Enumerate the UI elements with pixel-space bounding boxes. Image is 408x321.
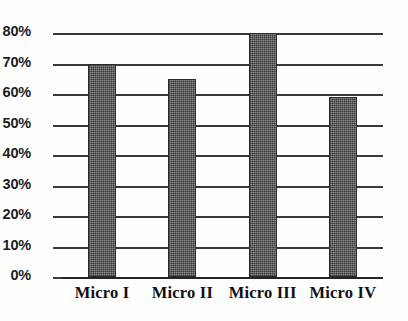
y-axis-tick-mark [53, 64, 62, 66]
y-axis-tick-mark [53, 186, 62, 188]
y-axis-tick-label: 60% [0, 84, 31, 100]
category-axis: Micro IMicro IIMicro IIIMicro IV [62, 283, 383, 313]
y-axis-tick-mark [53, 216, 62, 218]
y-axis-tick-label: 0% [0, 267, 31, 283]
bar [88, 64, 116, 278]
bar [329, 97, 357, 277]
gridline [62, 33, 383, 35]
bar [168, 79, 196, 277]
x-axis-category-label: Micro IV [293, 283, 393, 303]
y-axis-tick-mark [53, 247, 62, 249]
y-axis-tick-label: 50% [0, 115, 31, 131]
y-axis-tick-label: 70% [0, 54, 31, 70]
y-axis-tick-label: 10% [0, 237, 31, 253]
y-axis-tick-mark [53, 277, 62, 279]
y-axis-tick-label: 20% [0, 206, 31, 222]
y-axis-tick-label: 30% [0, 176, 31, 192]
bar [249, 33, 277, 277]
y-axis-tick-mark [53, 94, 62, 96]
y-axis-tick-label: 80% [0, 23, 31, 39]
plot-area: 0%10%20%30%40%50%60%70%80% [62, 33, 383, 277]
y-axis-tick-mark [53, 155, 62, 157]
y-axis-tick-mark [53, 33, 62, 35]
y-axis-tick-label: 40% [0, 145, 31, 161]
bar-chart-figure: 0%10%20%30%40%50%60%70%80% Micro IMicro … [0, 0, 408, 321]
y-axis-tick-mark [53, 125, 62, 127]
x-axis-line [62, 277, 383, 279]
